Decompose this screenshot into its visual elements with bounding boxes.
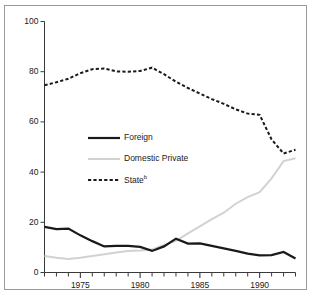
legend-label-text: Domestic Private bbox=[124, 153, 188, 163]
series-line-state bbox=[45, 68, 296, 154]
legend-label-foreign: Foreign bbox=[124, 132, 153, 142]
figure-caption bbox=[5, 292, 312, 303]
series-line-foreign bbox=[45, 227, 296, 259]
series-line-domestic-private bbox=[45, 158, 296, 259]
y-tick-label: 60 bbox=[13, 116, 39, 126]
y-tick-label: 20 bbox=[13, 217, 39, 227]
y-tick-label: 0 bbox=[13, 267, 39, 277]
chart-svg bbox=[0, 0, 317, 303]
x-tick-label: 1985 bbox=[180, 280, 220, 290]
plot-area bbox=[0, 0, 317, 303]
y-tick-label: 100 bbox=[13, 16, 39, 26]
x-tick-label: 1990 bbox=[240, 280, 280, 290]
data-series bbox=[45, 68, 296, 259]
x-tick-label: 1975 bbox=[60, 280, 100, 290]
legend-label-text: State bbox=[124, 175, 144, 185]
figure: 020406080100 1975198019851990 ForeignDom… bbox=[0, 0, 317, 303]
legend-label-state: Stateb bbox=[124, 174, 147, 185]
legend-label-superscript: b bbox=[144, 174, 147, 180]
legend-label-text: Foreign bbox=[124, 132, 153, 142]
y-tick-label: 80 bbox=[13, 66, 39, 76]
legend-marks bbox=[88, 138, 120, 180]
axes bbox=[41, 22, 296, 279]
legend-label-domestic-private: Domestic Private bbox=[124, 153, 188, 163]
y-tick-label: 40 bbox=[13, 167, 39, 177]
x-tick-label: 1980 bbox=[120, 280, 160, 290]
